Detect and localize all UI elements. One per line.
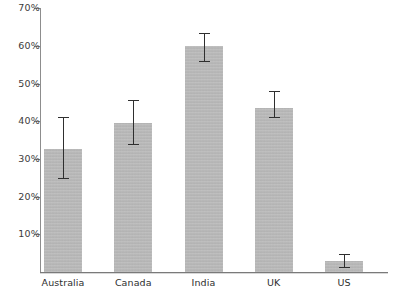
- y-axis-tick: 10%: [0, 234, 40, 235]
- y-axis-tick: 70%: [0, 8, 40, 9]
- y-axis-tick-label: 20%: [8, 192, 40, 202]
- y-axis-tick-label: 10%: [8, 229, 40, 239]
- y-axis-tick: 30%: [0, 159, 40, 160]
- bar-india: [185, 46, 223, 272]
- error-bar-line: [204, 33, 205, 61]
- error-bar-cap-upper: [128, 100, 139, 101]
- error-bar-cap-lower: [199, 61, 210, 62]
- error-bar-cap-upper: [339, 254, 350, 255]
- x-axis-line: [40, 272, 388, 273]
- y-axis-line: [40, 8, 41, 272]
- y-axis-tick: 20%: [0, 197, 40, 198]
- bar-uk: [255, 108, 293, 272]
- y-axis-tick: 60%: [0, 46, 40, 47]
- error-bar-cap-upper: [269, 91, 280, 92]
- error-bar-cap-lower: [58, 178, 69, 179]
- y-axis-tick-label: 60%: [8, 41, 40, 51]
- error-bar-cap-upper: [58, 117, 69, 118]
- y-axis-tick-label: 40%: [8, 116, 40, 126]
- y-axis-tick-label: 50%: [8, 79, 40, 89]
- y-axis-tick-label: 70%: [8, 3, 40, 13]
- y-axis-tick-label: 30%: [8, 154, 40, 164]
- error-bar-line: [133, 100, 134, 143]
- error-bar-line: [274, 91, 275, 117]
- bar-canada: [114, 123, 152, 272]
- error-bar-cap-lower: [269, 117, 280, 118]
- error-bar-cap-upper: [199, 33, 210, 34]
- error-bar-line: [344, 254, 345, 267]
- error-bar-cap-lower: [128, 144, 139, 145]
- error-bar-cap-lower: [339, 267, 350, 268]
- error-bar-line: [63, 117, 64, 177]
- y-axis-tick: 40%: [0, 121, 40, 122]
- y-axis-tick: 50%: [0, 84, 40, 85]
- bar-chart: 10%20%30%40%50%60%70% AustraliaCanadaInd…: [0, 0, 395, 301]
- x-axis-label-us: US: [299, 277, 389, 289]
